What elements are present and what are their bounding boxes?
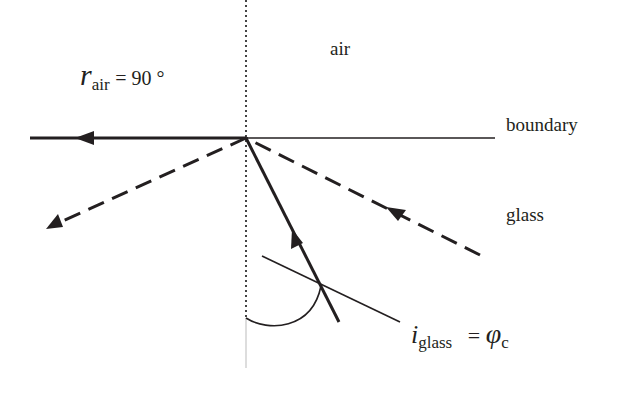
angle-arc [246,286,321,326]
label-boundary: boundary [506,114,578,136]
phi-symbol: φ [486,318,502,349]
reflected-ray-dashed [56,138,246,224]
label-r-air: rair = 90 ° [80,58,164,92]
r-value: = 90 ° [115,67,164,89]
i-subscript: glass [418,333,452,352]
r-subscript: air [92,75,110,94]
label-leader-line [262,256,400,322]
phi-subscript: c [501,333,509,352]
arrow-reflected-icon [46,214,63,229]
arrow-left-icon [75,131,94,145]
label-i-glass: iglass = φc [411,318,509,350]
equals-sign: = [468,323,480,348]
label-glass: glass [506,204,544,226]
label-air: air [330,38,350,60]
arrow-dashed-incident-icon [386,207,406,221]
r-symbol: r [80,58,92,91]
incident-ray-dashed [246,138,480,255]
